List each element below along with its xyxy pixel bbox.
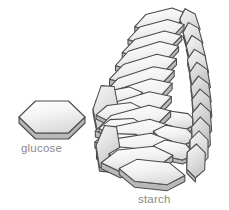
glucose-monomer <box>19 101 85 139</box>
glucose-unit <box>19 101 85 139</box>
diagram-figure: glucose starch <box>0 0 229 210</box>
glucose-label: glucose <box>21 142 62 154</box>
diagram-canvas: glucose starch <box>0 0 229 210</box>
starch-label: starch <box>138 193 171 205</box>
